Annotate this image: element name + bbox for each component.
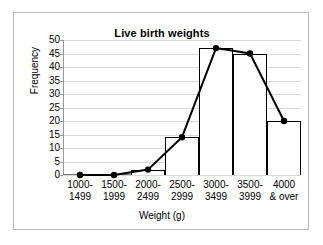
data-point-marker (179, 134, 185, 140)
x-tick-label-line: 3500- (233, 179, 267, 191)
x-tick-label-line: 1500- (97, 179, 131, 191)
x-tick-label: 1500-1999 (97, 179, 131, 203)
x-tick-label: 1000-1499 (63, 179, 97, 203)
y-axis-tick-labels: 50454035302520151050 (34, 40, 60, 175)
x-tick-label-line: & over (267, 191, 301, 203)
x-tick-label-line: 1999 (97, 191, 131, 203)
data-point-marker (145, 166, 151, 172)
x-tick-label: 3000-3499 (199, 179, 233, 203)
x-tick-label-line: 3000- (199, 179, 233, 191)
y-tick-mark (59, 175, 63, 176)
x-tick-label-line: 4000 (267, 179, 301, 191)
line-path (80, 48, 284, 175)
frequency-polygon-line (63, 40, 301, 175)
x-tick-label-line: 3999 (233, 191, 267, 203)
x-axis-title: Weight (g) (14, 210, 310, 221)
x-tick-label: 2500-2999 (165, 179, 199, 203)
x-tick-label-line: 1000- (63, 179, 97, 191)
data-point-marker (77, 172, 83, 178)
x-tick-label-line: 3499 (199, 191, 233, 203)
x-tick-label-line: 2000- (131, 179, 165, 191)
x-tick-label-line: 2499 (131, 191, 165, 203)
x-tick-label-line: 2500- (165, 179, 199, 191)
x-tick-label: 3500-3999 (233, 179, 267, 203)
plot-area (63, 40, 301, 175)
data-point-marker (111, 172, 117, 178)
x-tick-label-line: 1499 (63, 191, 97, 203)
data-point-marker (247, 50, 253, 56)
x-tick-label: 2000-2499 (131, 179, 165, 203)
data-point-marker (213, 45, 219, 51)
x-axis-tick-labels: 1000-14991500-19992000-24992500-29993000… (63, 179, 301, 213)
data-point-marker (281, 118, 287, 124)
x-tick-label-line: 2999 (165, 191, 199, 203)
chart-frame: Live birth weights Frequency 50454035302… (13, 12, 309, 230)
x-tick-label: 4000& over (267, 179, 301, 203)
